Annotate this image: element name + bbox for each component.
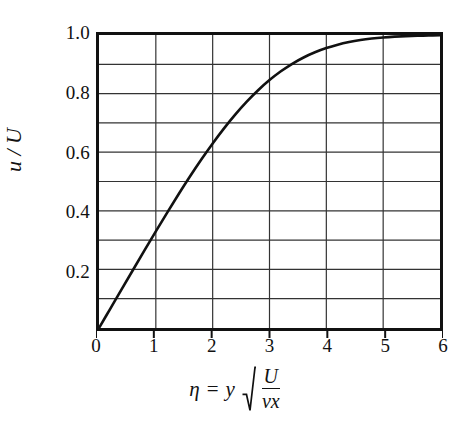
fraction: U νx: [256, 366, 286, 412]
square-root-group: U νx: [242, 366, 286, 412]
y-axis-title: u / U: [1, 128, 27, 172]
figure-root: u / U 1.0 0.8 0.6 0.4 0.2 0 1 2 3 4 5 6 …: [0, 0, 475, 430]
y-tick-label: 0.6: [66, 142, 90, 161]
fraction-denominator: νx: [260, 390, 282, 412]
velocity-profile-curve: [99, 35, 440, 328]
x-tick-label: 2: [207, 336, 217, 355]
x-tick-label: 3: [265, 336, 275, 355]
plot-area: [96, 32, 443, 331]
radical-icon: [242, 366, 256, 412]
x-axis-formula: η = y U νx: [189, 366, 285, 412]
equals-symbol: =: [205, 377, 221, 402]
fraction-numerator: U: [262, 366, 280, 389]
x-axis-title: η = y U νx: [0, 366, 475, 412]
y-tick-label: 0.2: [66, 262, 90, 281]
series-line: [99, 35, 440, 328]
y-tick-label: 0.4: [66, 202, 90, 221]
x-tick-label: 6: [438, 336, 448, 355]
y-tick-label: 0.8: [66, 82, 90, 101]
x-tick-label: 4: [323, 336, 333, 355]
x-tick-label: 1: [149, 336, 159, 355]
x-tick-label: 5: [380, 336, 390, 355]
y-tick-label: 1.0: [66, 23, 90, 42]
x-tick-label: 0: [91, 336, 101, 355]
x-axis-tick-labels: 0 1 2 3 4 5 6: [96, 336, 443, 362]
y-axis-tick-labels: 1.0 0.8 0.6 0.4 0.2: [40, 32, 90, 331]
y-symbol: y: [226, 377, 235, 402]
eta-symbol: η: [189, 377, 199, 402]
